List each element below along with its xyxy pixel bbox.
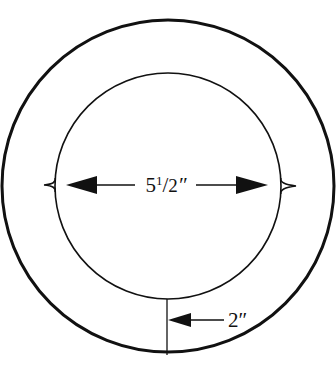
ring-width-arrowhead-icon bbox=[168, 313, 191, 327]
left-arrowhead-icon bbox=[66, 176, 97, 194]
ring-diagram: 51/2″ 2″ bbox=[0, 0, 336, 370]
left-notch-tick bbox=[44, 178, 55, 192]
right-notch-tick bbox=[281, 178, 296, 194]
ring-width-label: 2″ bbox=[228, 308, 247, 332]
right-arrowhead-icon bbox=[236, 176, 268, 194]
inner-diameter-label: 51/2″ bbox=[145, 173, 186, 197]
inner-diameter-dimension: 51/2″ bbox=[66, 173, 268, 197]
